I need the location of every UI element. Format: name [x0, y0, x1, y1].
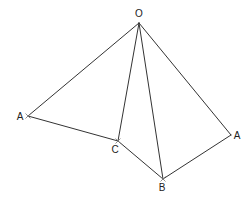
point-label-a1: A	[17, 111, 24, 122]
diagram-svg: OACBA	[0, 0, 249, 198]
segment-o-c	[118, 23, 139, 141]
point-mark-group	[26, 114, 166, 182]
segment-b-a2	[163, 135, 231, 179]
point-label-o: O	[135, 8, 143, 19]
segment-o-a1	[28, 23, 139, 116]
point-label-b: B	[159, 182, 166, 193]
point-label-group: OACBA	[17, 8, 241, 193]
point-label-c: C	[111, 144, 118, 155]
segment-a1-c	[28, 116, 118, 141]
segment-c-b	[118, 141, 163, 179]
segment-group	[28, 23, 231, 179]
segment-o-a2	[139, 23, 231, 135]
segment-o-b	[139, 23, 163, 179]
point-label-a2: A	[234, 130, 241, 141]
geometry-diagram: OACBA	[0, 0, 249, 198]
